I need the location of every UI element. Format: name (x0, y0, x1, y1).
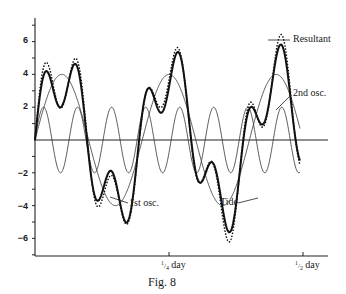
y-tick-label-neg2: −2 (2, 168, 28, 178)
x-label-half-day: 1/2 day (295, 259, 320, 271)
y-tick-label-neg4: −4 (2, 201, 28, 211)
tide-chart (0, 0, 346, 294)
tide-label: Tide (220, 196, 238, 207)
second-osc-label: 2nd osc. (293, 87, 326, 98)
tide-leader (238, 198, 258, 203)
y-tick-label-neg6: −6 (2, 233, 28, 243)
y-tick-label-2: 2 (2, 101, 28, 111)
second-osc-leader (276, 95, 291, 110)
tide-curve (35, 35, 300, 243)
y-tick-label-4: 4 (2, 68, 28, 78)
half-fraction: 1/2 (295, 262, 303, 270)
y-tick-label-6: 6 (2, 35, 28, 45)
figure-caption: Fig. 8 (148, 275, 176, 290)
quarter-fraction: 1/4 (161, 262, 169, 270)
resultant-curve (35, 45, 300, 233)
resultant-label: Resultant (293, 33, 331, 44)
first-osc-label: 1st osc. (129, 197, 159, 208)
x-label-quarter-day: 1/4 day (161, 259, 186, 271)
